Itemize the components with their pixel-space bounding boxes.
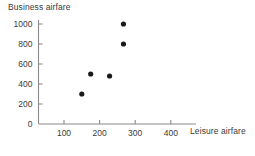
y-tick-label: 400 <box>18 79 32 89</box>
y-tick-label: 600 <box>18 59 32 69</box>
data-point <box>121 21 126 26</box>
y-tick-label: 200 <box>18 99 32 109</box>
data-point <box>79 91 84 96</box>
plot-area: 02004006008001000 100200300400 <box>0 0 255 156</box>
x-tick-label: 100 <box>57 128 71 138</box>
x-tick-label: 300 <box>128 128 142 138</box>
scatter-plot-figure: Business airfare Leisure airfare 0200400… <box>0 0 255 156</box>
data-point <box>121 41 126 46</box>
x-axis: 100200300400 <box>39 120 197 138</box>
data-points <box>79 21 126 96</box>
data-point <box>107 73 112 78</box>
y-tick-label: 1000 <box>14 19 33 29</box>
x-tick-label: 400 <box>164 128 178 138</box>
y-tick-label: 800 <box>18 39 32 49</box>
x-tick-label: 200 <box>93 128 107 138</box>
data-point <box>88 71 93 76</box>
y-axis: 02004006008001000 <box>14 19 43 129</box>
y-tick-label: 0 <box>28 119 33 129</box>
